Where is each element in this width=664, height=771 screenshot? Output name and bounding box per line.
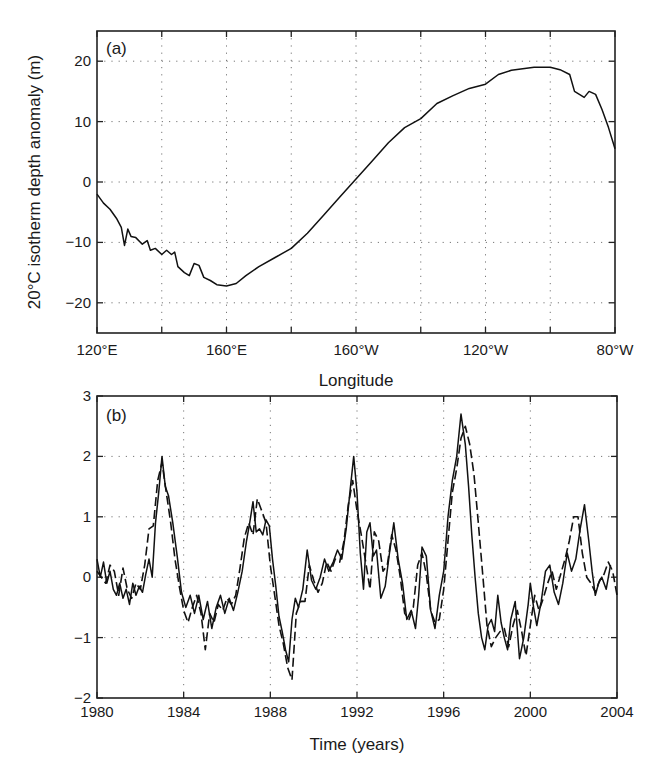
y-tick-label: −20 [66, 294, 91, 311]
x-tick-label: 2000 [514, 703, 547, 720]
x-tick-label: 1992 [340, 703, 373, 720]
panel-a-label: (a) [106, 39, 127, 58]
x-tick-label: 1984 [167, 703, 200, 720]
y-tick-label: −1 [74, 629, 91, 646]
x-tick-label: 120°W [463, 341, 509, 358]
panel-a-xlabel: Longitude [319, 371, 394, 390]
x-tick-label: 1996 [427, 703, 460, 720]
panel-b: 1980198419881992199620002004−2−10123 (b)… [74, 387, 634, 754]
y-tick-label: 3 [83, 387, 91, 404]
y-tick-label: 20 [74, 52, 91, 69]
y-tick-label: 0 [83, 173, 91, 190]
x-tick-label: 160°E [206, 341, 247, 358]
panel-b-xlabel: Time (years) [310, 735, 405, 754]
x-tick-label: 120°E [76, 341, 117, 358]
y-tick-label: 1 [83, 508, 91, 525]
panel-a-grid [97, 31, 615, 333]
panel-a-ylabel: 20°C isotherm depth anomaly (m) [25, 55, 44, 309]
y-tick-label: 0 [83, 568, 91, 585]
panel-b-ticks: 1980198419881992199620002004−2−10123 [74, 387, 634, 720]
panel-b-grid [97, 396, 617, 698]
x-tick-label: 160°W [333, 341, 379, 358]
figure: 120°E160°E160°W120°W80°W−20−1001020 (a) … [0, 0, 664, 771]
x-tick-label: 80°W [597, 341, 635, 358]
x-tick-label: 1988 [254, 703, 287, 720]
panel-b-solid-line [97, 414, 611, 662]
y-tick-label: 2 [83, 447, 91, 464]
panel-b-frame [97, 396, 617, 698]
y-tick-label: −2 [74, 689, 91, 706]
panel-b-label: (b) [106, 406, 127, 425]
y-tick-label: −10 [66, 233, 91, 250]
y-tick-label: 10 [74, 113, 91, 130]
x-tick-label: 2004 [600, 703, 633, 720]
panel-a: 120°E160°E160°W120°W80°W−20−1001020 (a) … [25, 31, 634, 390]
panel-a-ticks: 120°E160°E160°W120°W80°W−20−1001020 [66, 31, 635, 358]
panel-a-series-line [97, 67, 615, 286]
